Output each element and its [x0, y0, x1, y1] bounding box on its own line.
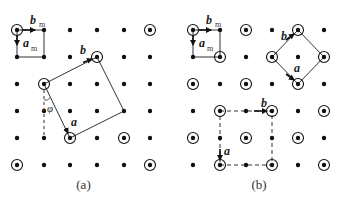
lattice-dot	[270, 55, 274, 59]
lattice-dot	[296, 28, 300, 32]
lattice-dot	[244, 28, 248, 32]
lattice-dot	[68, 136, 72, 140]
lattice-dot	[322, 163, 326, 167]
panel-b: bmambaba(b)	[188, 13, 330, 192]
lattice-dot	[218, 109, 222, 113]
lattice-dot	[15, 163, 19, 167]
lattice-dot	[322, 55, 326, 59]
lattice-dot	[15, 82, 19, 86]
panel-caption: (b)	[251, 177, 266, 192]
lattice-dot	[148, 109, 152, 113]
lattice-dot	[15, 136, 19, 140]
lattice-dot	[122, 82, 126, 86]
lattice-dot	[244, 163, 248, 167]
phi-label: φ	[47, 102, 53, 114]
bm-label: b	[206, 13, 212, 27]
lattice-dot	[270, 82, 274, 86]
a-label: a	[71, 115, 77, 129]
lattice-dot	[191, 55, 195, 59]
lattice-dot	[68, 55, 72, 59]
angle-arc	[44, 98, 50, 100]
dashed-b-label: b	[261, 96, 267, 110]
lattice-dot	[42, 55, 46, 59]
lattice-dot	[148, 82, 152, 86]
lattice-dot	[95, 28, 99, 32]
lattice-dot	[122, 55, 126, 59]
lattice-dot	[148, 28, 152, 32]
bm-subscript: m	[215, 20, 222, 29]
lattice-dot	[191, 28, 195, 32]
lattice-dot	[244, 109, 248, 113]
lattice-dot	[68, 82, 72, 86]
lattice-dot	[122, 136, 126, 140]
lattice-dot	[95, 163, 99, 167]
b-label: b	[80, 43, 86, 57]
lattice-dot	[244, 82, 248, 86]
lattice-figure: bmambaφ(a) bmambaba(b)	[0, 0, 341, 205]
lattice-dot	[95, 109, 99, 113]
lattice-dot	[122, 28, 126, 32]
lattice-dot	[148, 136, 152, 140]
lattice-dot	[148, 163, 152, 167]
lattice-dot	[42, 163, 46, 167]
panel-a: bmambaφ(a)	[12, 13, 156, 192]
dashed-a-label: a	[224, 144, 230, 158]
a-vector-arrow	[66, 128, 69, 133]
lattice-dot	[42, 82, 46, 86]
lattice-dot	[218, 82, 222, 86]
lattice-dot	[68, 163, 72, 167]
lattice-dot	[322, 28, 326, 32]
lattice-dot	[218, 163, 222, 167]
lattice-dot	[270, 163, 274, 167]
lattice-dot	[244, 136, 248, 140]
lattice-dot	[122, 163, 126, 167]
lattice-dot	[296, 136, 300, 140]
rotated-b-label: b	[281, 29, 287, 43]
lattice-dot	[95, 136, 99, 140]
lattice-dot	[270, 28, 274, 32]
lattice-dot	[68, 28, 72, 32]
lattice-dot	[296, 55, 300, 59]
panel-caption: (a)	[76, 177, 90, 192]
rotated-a-label: a	[294, 61, 300, 75]
bm-label: b	[30, 13, 36, 27]
rotated-b-vector-arrow	[286, 34, 294, 40]
lattice-dot	[296, 109, 300, 113]
lattice-dot	[218, 55, 222, 59]
lattice-dot	[191, 163, 195, 167]
lattice-dot	[218, 136, 222, 140]
lattice-dot	[296, 82, 300, 86]
am-subscript: m	[31, 44, 38, 53]
lattice-dot	[122, 109, 126, 113]
lattice-dot	[191, 136, 195, 140]
lattice-dot	[68, 109, 72, 113]
lattice-dot	[270, 109, 274, 113]
lattice-dot	[191, 82, 195, 86]
am-subscript: m	[207, 44, 214, 53]
lattice-dot	[191, 109, 195, 113]
bm-subscript: m	[39, 20, 46, 29]
lattice-dot	[95, 82, 99, 86]
am-label: a	[199, 36, 205, 50]
lattice-dot	[322, 82, 326, 86]
lattice-dot	[148, 55, 152, 59]
am-label: a	[23, 36, 29, 50]
lattice-dot	[15, 109, 19, 113]
lattice-dot	[322, 109, 326, 113]
lattice-dot	[322, 136, 326, 140]
supercell-outline	[44, 57, 124, 138]
lattice-dot	[270, 136, 274, 140]
lattice-dot	[296, 163, 300, 167]
rotated-a-vector-arrow	[286, 74, 294, 80]
lattice-dot	[95, 55, 99, 59]
lattice-dot	[244, 55, 248, 59]
lattice-dot	[15, 28, 19, 32]
lattice-dot	[15, 55, 19, 59]
